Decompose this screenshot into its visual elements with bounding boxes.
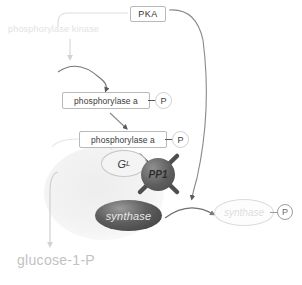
- node-phosphorylase-a-1[interactable]: phosphorylase a: [62, 92, 150, 109]
- arrow-pka-to-synthase: [169, 10, 206, 198]
- node-synthase[interactable]: synthase: [95, 200, 162, 231]
- connector-phosphorylase-a-2-to-glycogen: [52, 139, 79, 147]
- node-glucose-1-p: glucose-1-P: [17, 252, 95, 268]
- node-synthase-inactive[interactable]: synthase: [214, 199, 274, 226]
- phosphate-circle-icon-1: P: [155, 92, 172, 109]
- node-pka[interactable]: PKA: [130, 6, 166, 22]
- arrow-to-phosphorylase-a-1: [58, 66, 106, 90]
- gl-label: G: [117, 158, 126, 170]
- phosphate-circle-icon-3: P: [277, 204, 293, 220]
- arrow-phosphorylase-a-1-to-2: [110, 113, 126, 128]
- node-phosphorylase-a-2[interactable]: phosphorylase a: [79, 131, 167, 148]
- node-pp1[interactable]: PP1: [141, 158, 175, 191]
- gl-subscript: L: [126, 159, 130, 168]
- node-phosphorylase-kinase: phosphorylase kinase: [8, 24, 99, 34]
- phosphate-circle-icon-2: P: [172, 131, 189, 148]
- arrow-synthase-to-synthase-p: [165, 208, 213, 218]
